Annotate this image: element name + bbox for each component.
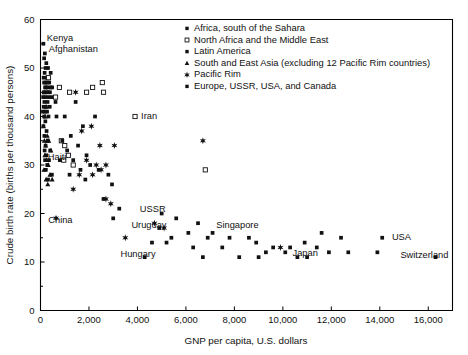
- data-point: [107, 173, 111, 177]
- legend-item-label: Latin America: [194, 45, 252, 56]
- y-tick-label: 0: [29, 305, 34, 316]
- data-point: [288, 246, 292, 250]
- data-point: [170, 236, 174, 240]
- legend-marker-icon: [185, 27, 188, 30]
- data-point: [76, 171, 82, 178]
- data-point: [283, 250, 287, 254]
- x-tick-label: 10,000: [268, 314, 297, 325]
- data-point: [203, 168, 207, 172]
- x-tick-label: 14,000: [365, 314, 394, 325]
- data-point: [71, 158, 75, 162]
- data-point: [81, 124, 85, 128]
- data-point: [69, 134, 73, 138]
- data-point: [84, 157, 90, 164]
- data-point: [103, 162, 109, 169]
- data-point: [257, 255, 261, 259]
- legend-item[interactable]: North Africa and the Middle East: [185, 34, 329, 45]
- point-label: Uruguay: [131, 220, 166, 230]
- data-point: [186, 231, 190, 235]
- legend-item[interactable]: Europe, USSR, USA, and Canada: [185, 80, 337, 91]
- data-point: [320, 231, 324, 235]
- legend-item[interactable]: Latin America: [185, 45, 251, 56]
- y-tick-label: 30: [24, 159, 35, 170]
- data-point: [48, 105, 52, 109]
- data-point: [49, 71, 53, 75]
- data-point: [376, 250, 380, 254]
- legend-marker-icon: [185, 38, 189, 42]
- data-point: [111, 142, 117, 149]
- y-tick-label: 60: [24, 14, 35, 25]
- data-point: [74, 100, 78, 104]
- data-point: [264, 250, 268, 254]
- data-point: [228, 236, 232, 240]
- y-tick-label: 50: [24, 62, 35, 73]
- point-label: Haiti: [48, 152, 67, 162]
- data-point: [220, 246, 224, 250]
- y-tick-label: 40: [24, 111, 35, 122]
- data-point: [110, 183, 114, 187]
- data-point: [48, 90, 52, 94]
- data-point: [100, 80, 104, 84]
- data-point: [85, 153, 89, 157]
- point-label: Hungary: [120, 249, 155, 259]
- legend-item[interactable]: Africa, south of the Sahara: [185, 22, 305, 33]
- data-point: [339, 236, 343, 240]
- legend-marker-icon: [185, 61, 190, 65]
- data-point: [42, 56, 46, 60]
- data-point: [46, 100, 50, 104]
- data-point: [60, 139, 64, 143]
- data-point: [200, 137, 206, 144]
- data-point: [88, 163, 92, 167]
- data-point: [271, 246, 275, 250]
- data-point: [43, 95, 47, 99]
- data-point: [76, 144, 80, 148]
- data-point: [237, 255, 241, 259]
- x-tick-label: 6,000: [174, 314, 198, 325]
- data-point: [150, 241, 154, 245]
- data-point: [70, 186, 76, 193]
- data-point: [42, 42, 46, 46]
- data-point: [111, 217, 115, 221]
- legend-item[interactable]: Pacific Rim: [184, 68, 241, 79]
- point-label: USSR: [140, 204, 166, 214]
- legend-item-label: North Africa and the Middle East: [194, 34, 329, 45]
- plot-svg: 02,0004,0006,0008,00010,00012,00014,0001…: [0, 0, 468, 355]
- data-point: [90, 171, 96, 178]
- y-tick-label: 20: [24, 208, 35, 219]
- legend-item[interactable]: South and East Asia (excluding 12 Pacifi…: [185, 57, 430, 68]
- data-point: [43, 149, 47, 153]
- data-point: [254, 241, 258, 245]
- legend-item-label: Africa, south of the Sahara: [194, 22, 306, 33]
- data-point: [42, 76, 46, 80]
- series-group: [41, 90, 55, 187]
- legend-marker-icon: [185, 50, 188, 53]
- y-axis-title: Crude birth rate (births per thousand pe…: [4, 66, 15, 265]
- data-point: [117, 207, 121, 211]
- data-point: [43, 71, 47, 75]
- point-label: Switzerland: [400, 250, 448, 260]
- point-label: Singapore: [216, 220, 258, 230]
- series-group: [58, 100, 121, 220]
- data-point: [57, 85, 61, 89]
- data-point: [45, 182, 50, 187]
- y-tick-label: 10: [24, 256, 35, 267]
- x-tick-label: 16,000: [414, 314, 443, 325]
- data-point: [47, 81, 51, 85]
- data-point: [206, 236, 210, 240]
- data-point: [247, 236, 251, 240]
- point-label: Iran: [141, 111, 157, 121]
- x-tick-label: 12,000: [317, 314, 346, 325]
- data-point: [63, 144, 67, 148]
- legend-marker-icon: [185, 85, 188, 88]
- data-point: [191, 246, 195, 250]
- scatter-chart-figure: 02,0004,0006,0008,00010,00012,00014,0001…: [0, 0, 468, 355]
- data-point: [73, 89, 79, 96]
- data-point: [91, 85, 95, 89]
- data-point: [380, 236, 384, 240]
- data-point: [277, 244, 283, 251]
- y-axis-ticks: 0102030405060: [24, 14, 45, 316]
- point-label: USA: [392, 232, 412, 242]
- legend: Africa, south of the SaharaNorth Africa …: [184, 22, 430, 91]
- data-point: [42, 81, 46, 85]
- data-point: [93, 162, 99, 169]
